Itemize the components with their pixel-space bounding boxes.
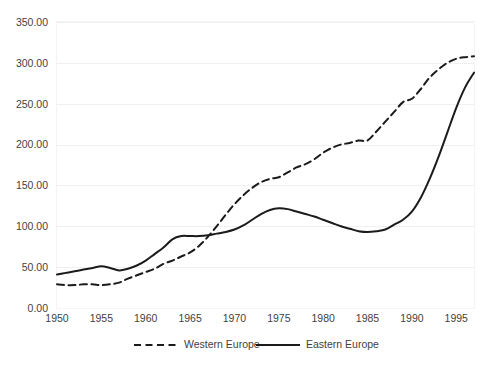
y-axis-tick-label: 50.00 — [22, 261, 48, 273]
x-axis-tick-labels: 1950195519601965197019751980198519901995 — [45, 312, 468, 324]
x-axis-tick-label: 1955 — [90, 312, 114, 324]
series-line-eastern-europe — [57, 73, 474, 275]
y-axis-tick-label: 200.00 — [16, 138, 48, 150]
y-axis-tick-label: 300.00 — [16, 57, 48, 69]
chart-legend: Western EuropeEastern Europe — [134, 338, 379, 350]
x-axis-tick-label: 1975 — [267, 312, 291, 324]
x-axis-tick-label: 1985 — [356, 312, 380, 324]
x-axis-tick-label: 1970 — [223, 312, 247, 324]
x-axis-tick-label: 1950 — [45, 312, 69, 324]
gridlines — [57, 23, 474, 309]
y-axis-tick-label: 100.00 — [16, 220, 48, 232]
x-axis-tick-label: 1960 — [134, 312, 158, 324]
chart-canvas: 0.0050.00100.00150.00200.00250.00300.003… — [0, 0, 482, 371]
y-axis-tick-labels: 0.0050.00100.00150.00200.00250.00300.003… — [16, 16, 48, 314]
data-series-group — [57, 56, 474, 285]
legend-label-eastern-europe: Eastern Europe — [306, 338, 379, 350]
x-axis-tick-label: 1990 — [400, 312, 424, 324]
x-axis-tick-label: 1980 — [311, 312, 335, 324]
plot-area-border — [57, 22, 475, 309]
x-axis-tick-label: 1995 — [445, 312, 469, 324]
legend-label-western-europe: Western Europe — [184, 338, 260, 350]
y-axis-tick-label: 150.00 — [16, 179, 48, 191]
x-axis-tick-label: 1965 — [178, 312, 202, 324]
caption-strip — [0, 362, 482, 371]
series-line-western-europe — [57, 56, 474, 285]
y-axis-tick-label: 350.00 — [16, 16, 48, 28]
y-axis-tick-label: 250.00 — [16, 98, 48, 110]
line-chart-figure: 0.0050.00100.00150.00200.00250.00300.003… — [0, 0, 482, 371]
